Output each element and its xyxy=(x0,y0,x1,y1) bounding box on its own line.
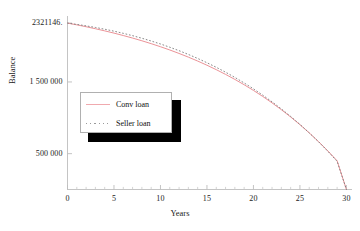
x-axis-tick-label: 30 xyxy=(326,194,360,203)
chart-legend: Conv loan Seller loan xyxy=(80,92,172,133)
legend-item-conv-loan[interactable]: Conv loan xyxy=(81,95,171,113)
x-axis-tick-label: 20 xyxy=(233,194,273,203)
legend-swatch-dotted-line-icon xyxy=(86,118,110,128)
y-axis-tick-label: 500 000 xyxy=(36,149,63,158)
x-axis-tick-label: 25 xyxy=(280,194,320,203)
x-axis-tick-label: 15 xyxy=(187,194,227,203)
x-axis-tick-label: 10 xyxy=(140,194,180,203)
chart-figure: 2321146.1 500 000500 000 051015202530 Ba… xyxy=(0,0,360,231)
legend-label-seller-loan: Seller loan xyxy=(116,119,150,128)
y-axis-tick-label: 1 500 000 xyxy=(30,77,63,86)
x-axis-title: Years xyxy=(0,208,360,218)
legend-label-conv-loan: Conv loan xyxy=(116,100,149,109)
legend-swatch-solid-line-icon xyxy=(86,99,110,109)
legend-item-seller-loan[interactable]: Seller loan xyxy=(81,114,171,132)
x-axis-tick-label: 0 xyxy=(48,194,88,203)
x-axis-tick-label: 5 xyxy=(94,194,134,203)
y-axis-major-ticks xyxy=(68,23,73,154)
y-axis-tick-label: 2321146. xyxy=(32,18,63,27)
x-axis-major-ticks xyxy=(68,185,347,190)
y-axis-title: Balance xyxy=(7,57,17,84)
